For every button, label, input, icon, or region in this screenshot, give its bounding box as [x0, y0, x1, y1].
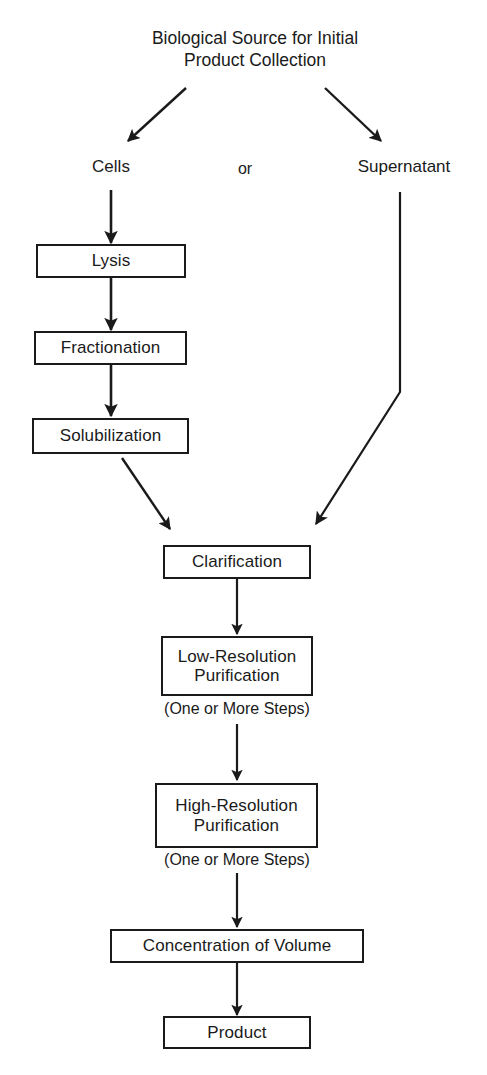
caption-high-resolution-steps: (One or More Steps)	[137, 851, 337, 869]
edge-source-to-cells	[128, 88, 186, 141]
edge-supernatant-to-clarification	[316, 192, 400, 524]
branch-conjunction-or: or	[215, 160, 275, 179]
node-low-resolution-purification[interactable]: Low-Resolution Purification	[161, 636, 313, 696]
node-clarification-label: Clarification	[192, 552, 282, 571]
node-fractionation-label: Fractionation	[61, 338, 161, 357]
branch-label-supernatant: Supernatant	[334, 157, 474, 177]
node-lysis-label: Lysis	[92, 251, 131, 270]
node-solubilization-label: Solubilization	[60, 426, 162, 445]
caption-low-resolution-steps: (One or More Steps)	[137, 700, 337, 718]
edge-solubilization-to-clarification	[122, 458, 170, 529]
node-high-resolution-purification-label-line-1: High-Resolution	[175, 796, 297, 815]
node-concentration-of-volume[interactable]: Concentration of Volume	[110, 929, 364, 963]
node-low-resolution-purification-label-line-2: Purification	[194, 666, 279, 685]
node-low-resolution-purification-label-line-1: Low-Resolution	[178, 647, 297, 666]
node-product[interactable]: Product	[163, 1016, 311, 1049]
node-high-resolution-purification[interactable]: High-Resolution Purification	[155, 783, 318, 848]
edge-source-to-supernatant	[325, 88, 381, 141]
branch-label-cells: Cells	[61, 157, 161, 177]
node-high-resolution-purification-label-line-2: Purification	[194, 816, 279, 835]
node-lysis[interactable]: Lysis	[36, 244, 186, 278]
diagram-title-line-2: Product Collection	[105, 50, 405, 72]
node-concentration-of-volume-label: Concentration of Volume	[143, 936, 331, 955]
diagram-title: Biological Source for Initial Product Co…	[105, 28, 405, 72]
node-product-label: Product	[207, 1023, 266, 1042]
node-fractionation[interactable]: Fractionation	[34, 331, 187, 365]
node-clarification[interactable]: Clarification	[163, 545, 311, 579]
diagram-title-line-1: Biological Source for Initial	[105, 28, 405, 50]
flowchart-canvas: Biological Source for Initial Product Co…	[0, 0, 487, 1075]
node-solubilization[interactable]: Solubilization	[32, 418, 189, 454]
